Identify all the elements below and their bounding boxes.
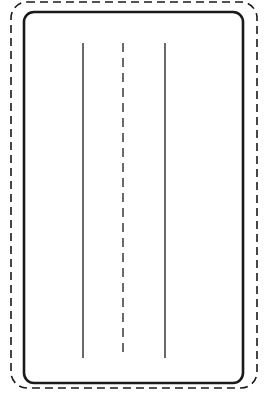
inner-solid-boundary: [24, 12, 243, 383]
lane-diagram: [0, 0, 264, 400]
outer-dashed-boundary: [11, 2, 257, 388]
